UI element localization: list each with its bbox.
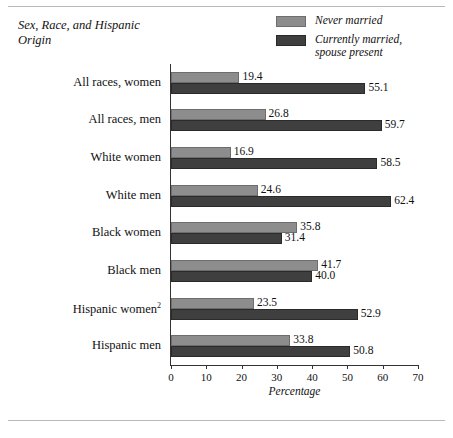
bar-group: 24.662.4 [171,185,418,208]
x-axis-tick [277,365,278,369]
x-axis-tick [171,365,172,369]
bar-value-label: 19.4 [242,70,262,82]
bar-value-label: 23.5 [257,296,277,308]
x-axis-tick-label: 40 [307,371,318,383]
plot-area: 01020304050607019.455.1All races, women2… [171,64,418,365]
bar-never[interactable] [171,335,290,346]
category-label: White women [1,150,161,165]
bottom-divider [8,420,445,421]
x-axis-tick [418,365,419,369]
x-axis-tick [347,365,348,369]
bar-never[interactable] [171,109,266,120]
x-axis-tick-label: 60 [377,371,388,383]
legend-label-currently-married: Currently married, spouse present [315,33,427,60]
bar-married[interactable] [171,309,358,320]
bar-married[interactable] [171,233,282,244]
x-axis-tick [206,365,207,369]
legend-label-never-married: Never married [315,14,382,28]
bar-group: 41.740.0 [171,260,418,283]
bar-never[interactable] [171,72,239,83]
bar-never[interactable] [171,222,297,233]
bar-group: 26.859.7 [171,109,418,132]
legend-item-currently-married: Currently married, spouse present [276,33,427,60]
bar-value-label: 40.0 [315,269,335,281]
bar-never[interactable] [171,147,231,158]
chart-legend: Never married Currently married, spouse … [276,14,427,65]
x-axis-title: Percentage [171,385,418,397]
bar-married[interactable] [171,158,377,169]
bar-value-label: 55.1 [368,81,388,93]
bar-value-label: 31.4 [285,231,305,243]
x-axis-tick-label: 50 [342,371,353,383]
bar-never[interactable] [171,185,258,196]
bar-value-label: 24.6 [261,183,281,195]
bar-value-label: 33.8 [293,333,313,345]
x-axis-tick [312,365,313,369]
bar-value-label: 50.8 [353,344,373,356]
top-divider [8,6,445,7]
category-label: White men [1,188,161,203]
x-axis-tick-label: 20 [236,371,247,383]
x-axis-tick [242,365,243,369]
bar-married[interactable] [171,83,365,94]
category-label: Black women [1,225,161,240]
x-axis-tick-label: 0 [168,371,174,383]
x-axis-tick-label: 10 [201,371,212,383]
category-label: All races, women [1,75,161,90]
chart-title: Sex, Race, and Hispanic Origin [18,18,168,48]
bar-group: 19.455.1 [171,72,418,95]
legend-swatch-currently-married [276,35,306,46]
legend-item-never-married: Never married [276,14,427,28]
bar-group: 35.831.4 [171,222,418,245]
bar-group: 23.552.9 [171,298,418,321]
x-axis-tick-label: 70 [413,371,424,383]
bar-married[interactable] [171,271,312,282]
category-footnote-marker: 2 [157,301,161,310]
bar-never[interactable] [171,260,318,271]
bar-married[interactable] [171,120,382,131]
bar-group: 33.850.8 [171,335,418,358]
x-axis-tick-label: 30 [271,371,282,383]
bar-value-label: 62.4 [394,194,414,206]
category-label: Black men [1,263,161,278]
x-axis-tick [383,365,384,369]
bar-value-label: 52.9 [361,307,381,319]
bar-value-label: 58.5 [380,156,400,168]
category-label: Hispanic women2 [1,301,161,317]
category-label: Hispanic men [1,338,161,353]
bar-group: 16.958.5 [171,147,418,170]
bar-value-label: 26.8 [269,107,289,119]
bar-value-label: 16.9 [234,145,254,157]
bar-value-label: 59.7 [385,118,405,130]
category-label: All races, men [1,112,161,127]
legend-swatch-never-married [276,16,306,27]
bar-married[interactable] [171,196,391,207]
bar-married[interactable] [171,346,350,357]
bar-never[interactable] [171,298,254,309]
